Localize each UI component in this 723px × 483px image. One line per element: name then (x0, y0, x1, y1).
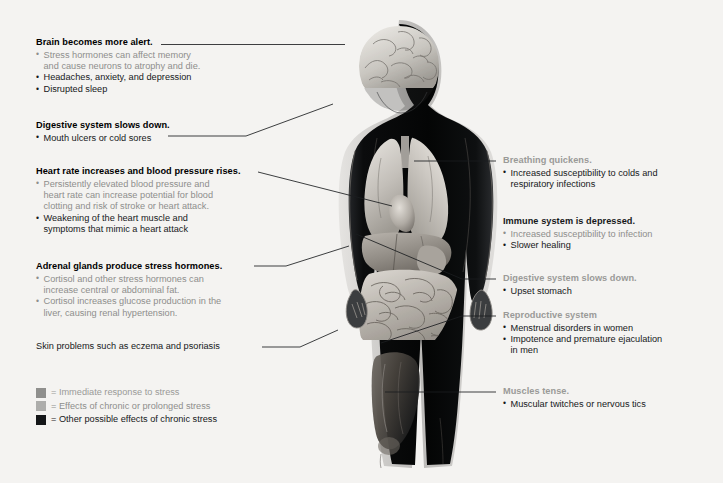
legend-swatch-chronic (36, 401, 46, 411)
leader-digestive-right (356, 234, 496, 279)
callout-reproductive-list: Menstrual disorders in women Impotence a… (503, 323, 662, 357)
list-item: symptoms that mimic a heart attack (36, 224, 241, 235)
legend-swatch-immediate (36, 388, 46, 398)
callout-immune-heading: Immune system is depressed. (503, 216, 652, 228)
list-item: Mouth ulcers or cold sores (36, 133, 170, 144)
list-item: Increased susceptibility to infection (503, 229, 652, 240)
callout-digestive-right-heading: Digestive system slows down. (503, 273, 637, 285)
list-item: Cortisol increases glucose production in… (36, 296, 222, 307)
list-item: clotting and risk of stroke or heart att… (36, 201, 241, 212)
callout-immune: Immune system is depressed. Increased su… (503, 216, 652, 251)
list-item: liver, causing renal hypertension. (36, 308, 222, 319)
legend-row-other: = Other possible effects of chronic stre… (36, 413, 217, 427)
list-item: respiratory infections (503, 179, 658, 190)
callout-adrenal: Adrenal glands produce stress hormones. … (36, 261, 222, 319)
callout-digestive-left: Digestive system slows down. Mouth ulcer… (36, 120, 170, 144)
callout-adrenal-list: Cortisol and other stress hormones can i… (36, 274, 222, 320)
callout-breathing-list: Increased susceptibility to colds and re… (503, 168, 658, 191)
leader-reproductive (381, 316, 496, 343)
list-item: Upset stomach (503, 286, 637, 297)
callout-heart-list: Persistently elevated blood pressure and… (36, 179, 241, 236)
callout-breathing-heading: Breathing quickens. (503, 155, 658, 167)
legend-row-immediate: = Immediate response to stress (36, 386, 217, 400)
list-item: Persistently elevated blood pressure and (36, 179, 241, 190)
callout-reproductive-heading: Reproductive system (503, 310, 662, 322)
callout-heart-heading: Heart rate increases and blood pressure … (36, 166, 241, 178)
list-item: Cortisol and other stress hormones can (36, 274, 222, 285)
list-item: heart rate can increase potential for bl… (36, 190, 241, 201)
list-item: Disrupted sleep (36, 84, 200, 95)
callout-immune-list: Increased susceptibility to infection Sl… (503, 229, 652, 252)
list-item: Headaches, anxiety, and depression (36, 72, 200, 83)
legend: = Immediate response to stress = Effects… (36, 386, 217, 427)
list-item: Muscular twitches or nervous tics (503, 399, 646, 410)
list-item: increase central or abdominal fat. (36, 285, 222, 296)
callout-digestive-right-list: Upset stomach (503, 286, 637, 297)
callout-reproductive: Reproductive system Menstrual disorders … (503, 310, 662, 357)
callout-brain: Brain becomes more alert. Stress hormone… (36, 37, 200, 95)
callout-brain-list: Stress hormones can affect memory and ca… (36, 50, 200, 96)
list-item: Stress hormones can affect memory (36, 50, 200, 61)
diagram-canvas: Brain becomes more alert. Stress hormone… (0, 0, 723, 483)
legend-label-other: = Other possible effects of chronic stre… (51, 414, 217, 425)
list-item: Impotence and premature ejaculation (503, 334, 662, 345)
list-item: Increased susceptibility to colds and (503, 168, 658, 179)
callout-muscles-heading: Muscles tense. (503, 386, 646, 398)
callout-digestive-right: Digestive system slows down. Upset stoma… (503, 273, 637, 297)
callout-digestive-left-heading: Digestive system slows down. (36, 120, 170, 132)
callout-skin: Skin problems such as eczema and psorias… (36, 341, 220, 352)
leader-heart (258, 172, 392, 206)
skin-note: Skin problems such as eczema and psorias… (36, 341, 220, 352)
list-item: in men (503, 345, 662, 356)
leader-mouth (168, 104, 333, 136)
callout-breathing: Breathing quickens. Increased susceptibi… (503, 155, 658, 190)
list-item: and cause neurons to atrophy and die. (36, 61, 200, 72)
legend-label-chronic: = Effects of chronic or prolonged stress (51, 401, 210, 412)
callout-brain-heading: Brain becomes more alert. (36, 37, 200, 49)
legend-row-chronic: = Effects of chronic or prolonged stress (36, 400, 217, 414)
callout-digestive-left-list: Mouth ulcers or cold sores (36, 133, 170, 144)
list-item: Weakening of the heart muscle and (36, 213, 241, 224)
callout-heart: Heart rate increases and blood pressure … (36, 166, 241, 236)
callout-muscles: Muscles tense. Muscular twitches or nerv… (503, 386, 646, 410)
callout-adrenal-heading: Adrenal glands produce stress hormones. (36, 261, 222, 273)
callout-muscles-list: Muscular twitches or nervous tics (503, 399, 646, 410)
legend-swatch-other (36, 415, 46, 425)
list-item: Menstrual disorders in women (503, 323, 662, 334)
list-item: Slower healing (503, 240, 652, 251)
leader-adrenal (254, 246, 349, 266)
legend-label-immediate: = Immediate response to stress (51, 387, 179, 398)
leader-skin (262, 330, 338, 347)
